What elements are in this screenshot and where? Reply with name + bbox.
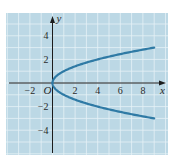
y-tick-label: 2 xyxy=(44,54,49,65)
y-tick-label: −2 xyxy=(38,101,49,112)
x-axis-label: x xyxy=(159,84,165,96)
x-tick-label: 6 xyxy=(118,85,123,96)
x-tick-label: −2 xyxy=(25,85,36,96)
y-tick-label: −4 xyxy=(38,125,49,136)
y-axis-label: y xyxy=(56,12,62,24)
y-tick-label: 4 xyxy=(44,30,49,41)
x-tick-label: 8 xyxy=(140,85,145,96)
x-tick-label: 4 xyxy=(95,85,100,96)
parabola-chart: −2246842−2−4 x y O xyxy=(0,0,179,161)
x-tick-label: 2 xyxy=(73,85,78,96)
origin-label: O xyxy=(44,84,52,96)
